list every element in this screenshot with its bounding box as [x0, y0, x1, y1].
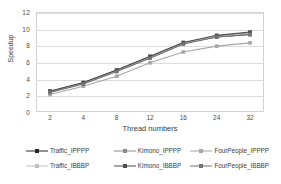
data-point-marker: [82, 82, 86, 86]
y-tick-label: 8: [26, 42, 30, 49]
legend-marker-icon: [199, 149, 203, 153]
x-tick-label: 2: [48, 114, 52, 121]
x-tick-label: 24: [213, 114, 220, 121]
legend-marker-icon: [123, 149, 127, 153]
legend-label: Traffic_IBBBP: [50, 162, 89, 169]
legend-item[interactable]: Traffic_IBBBP: [14, 158, 114, 173]
legend-label: FourPeople_IBBBP: [214, 162, 269, 169]
speedup-line-chart: 024681012 Speedup 24812162432 Thread num…: [0, 0, 281, 184]
y-axis-title: Speedup: [7, 23, 14, 75]
legend-key-icon: [190, 146, 212, 155]
data-point-marker: [115, 74, 119, 78]
data-point-marker: [148, 56, 152, 60]
y-axis-ticklabels: 024681012: [0, 12, 33, 112]
legend-marker-icon: [35, 149, 39, 153]
data-point-marker: [248, 41, 252, 45]
legend-row-bottom: Traffic_IBBBPKimono_IBBBPFourPeople_IBBB…: [14, 158, 269, 173]
legend-label: FourPeople_IPPPP: [214, 147, 269, 154]
y-tick-label: 12: [22, 9, 30, 16]
legend-label: Kimono_IBBBP: [138, 162, 181, 169]
legend-key-icon: [26, 146, 48, 155]
legend-row-top: Traffic_IPPPPKimono_IPPPPFourPeople_IPPP…: [14, 143, 269, 158]
data-point-marker: [115, 70, 119, 74]
series-layer: [36, 12, 264, 112]
data-point-marker: [215, 44, 219, 48]
legend-key-icon: [26, 161, 48, 170]
chart-legend: Traffic_IPPPPKimono_IPPPPFourPeople_IPPP…: [14, 143, 269, 179]
x-tick-label: 8: [115, 114, 119, 121]
y-tick-label: 4: [26, 75, 30, 82]
data-point-marker: [215, 35, 219, 39]
y-tick-label: 2: [26, 92, 30, 99]
data-point-marker: [248, 33, 252, 37]
y-tick-label: 0: [26, 109, 30, 116]
legend-key-icon: [114, 161, 136, 170]
x-tick-label: 32: [246, 114, 253, 121]
legend-item[interactable]: Kimono_IPPPP: [114, 143, 191, 158]
x-axis-title: Thread numbers: [36, 124, 264, 133]
legend-marker-icon: [123, 164, 127, 168]
x-tick-label: 4: [82, 114, 86, 121]
legend-item[interactable]: FourPeople_IPPPP: [190, 143, 269, 158]
legend-item[interactable]: Traffic_IPPPP: [14, 143, 114, 158]
legend-key-icon: [190, 161, 212, 170]
legend-label: Kimono_IPPPP: [138, 147, 181, 154]
legend-label: Traffic_IPPPP: [50, 147, 89, 154]
data-point-marker: [148, 61, 152, 65]
legend-key-icon: [114, 146, 136, 155]
y-tick-label: 6: [26, 59, 30, 66]
legend-item[interactable]: Kimono_IBBBP: [114, 158, 191, 173]
data-point-marker: [182, 42, 186, 46]
legend-item[interactable]: FourPeople_IBBBP: [190, 158, 269, 173]
legend-marker-icon: [199, 164, 203, 168]
legend-marker-icon: [35, 164, 39, 168]
x-tick-label: 12: [146, 114, 153, 121]
y-tick-label: 10: [22, 25, 30, 32]
data-point-marker: [182, 50, 186, 54]
x-tick-label: 16: [180, 114, 187, 121]
data-point-marker: [48, 91, 52, 95]
series-fourpeople-ipppp: [48, 41, 252, 96]
series-line: [50, 43, 250, 95]
